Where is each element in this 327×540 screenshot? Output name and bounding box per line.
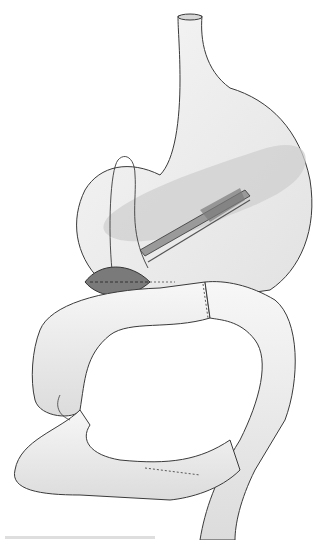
illustration-canvas [0,0,327,540]
gastrojejunostomy-illustration [0,0,327,540]
esophagus-opening [178,14,202,20]
stomach [77,14,312,302]
jejunum-loop [14,282,295,540]
cropped-caption-fragment [5,536,155,539]
